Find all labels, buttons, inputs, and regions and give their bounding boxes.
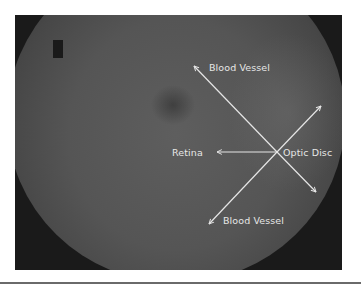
- arrow-lower-left-icon: [209, 152, 277, 224]
- label-optic-disc: Optic Disc: [283, 147, 332, 158]
- label-retina: Retina: [172, 147, 203, 158]
- arrow-lower-right-icon: [277, 152, 316, 192]
- bottom-divider: [0, 282, 361, 284]
- label-blood-vessel-bottom: Blood Vessel: [223, 215, 284, 226]
- label-blood-vessel-top: Blood Vessel: [209, 62, 270, 73]
- arrow-upper-right-icon: [277, 106, 321, 152]
- annotation-arrows: [0, 0, 361, 287]
- arrow-upper-left-icon: [194, 66, 277, 152]
